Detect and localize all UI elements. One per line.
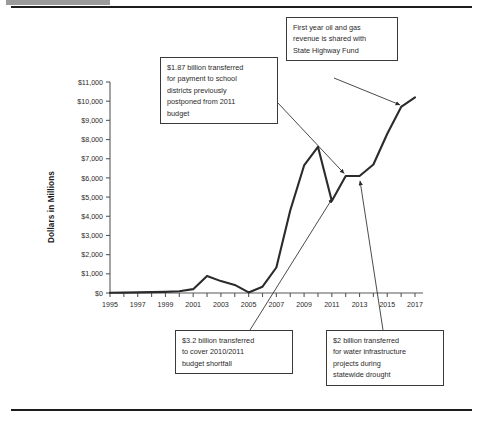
- annotation-line: postponed from 2011: [167, 96, 272, 107]
- x-tick-label: 2017: [407, 301, 423, 309]
- x-tick-label: 2015: [379, 301, 395, 309]
- y-tick-label: $1,000: [81, 270, 103, 278]
- y-tick-label: $7,000: [81, 155, 103, 163]
- x-tick-label: 2007: [268, 301, 284, 309]
- annotation-line: $3.2 billion transferred: [182, 335, 287, 346]
- annotation-line: revenue is shared with: [293, 33, 392, 44]
- y-tick-label: $4,000: [81, 213, 103, 221]
- annotation-line: to cover 2010/2011: [182, 346, 287, 357]
- data-series-line: [110, 97, 415, 292]
- x-tick-label: 2011: [324, 301, 339, 309]
- annotation-line: First year oil and gas: [293, 22, 392, 33]
- annotation-water-infrastructure: $2 billion transferredfor water infrastr…: [326, 330, 444, 386]
- annotation-budget-shortfall: $3.2 billion transferredto cover 2010/20…: [175, 330, 293, 374]
- y-tick-label: $6,000: [81, 175, 103, 183]
- annotation-line: districts previously: [167, 85, 272, 96]
- x-tick-label: 1997: [130, 301, 146, 309]
- annotation-oil-gas-highway-fund: First year oil and gasrevenue is shared …: [286, 17, 398, 61]
- annotation-line: statewide drought: [333, 369, 438, 380]
- leader-oil-gas-highway-fund: [334, 78, 400, 105]
- figure-canvas: $0$1,000$2,000$3,000$4,000$5,000$6,000$7…: [0, 0, 483, 423]
- y-tick-label: $9,000: [81, 117, 103, 125]
- leader-budget-shortfall: [250, 198, 332, 330]
- annotation-line: $2 billion transferred: [333, 335, 438, 346]
- annotation-school-districts: $1.87 billion transferredfor payment to …: [160, 57, 278, 124]
- y-tick-label: $2,000: [81, 251, 103, 259]
- y-tick-label: $8,000: [81, 136, 103, 144]
- leader-school-districts: [278, 103, 344, 173]
- annotation-line: $1.87 billion transferred: [167, 62, 272, 73]
- x-tick-label: 1995: [102, 301, 118, 309]
- y-axis-title: Dollars in Millions: [47, 171, 56, 243]
- y-tick-label: $0: [95, 290, 103, 298]
- annotation-line: projects during: [333, 358, 438, 369]
- annotation-line: for water infrastructure: [333, 346, 438, 357]
- y-tick-label: $5,000: [81, 194, 103, 202]
- x-tick-label: 2001: [185, 301, 201, 309]
- x-tick-label: 2009: [296, 301, 312, 309]
- y-tick-label: $10,000: [77, 98, 103, 106]
- x-tick-label: 2013: [352, 301, 368, 309]
- annotation-line: State Highway Fund: [293, 45, 392, 56]
- annotation-line: for payment to school: [167, 73, 272, 84]
- annotation-line: budget shortfall: [182, 358, 287, 369]
- y-tick-label: $11,000: [78, 79, 103, 87]
- annotation-line: budget: [167, 108, 272, 119]
- x-tick-label: 1999: [158, 301, 174, 309]
- x-tick-label: 2005: [241, 301, 257, 309]
- x-tick-label: 2003: [213, 301, 229, 309]
- y-tick-label: $3,000: [81, 232, 103, 240]
